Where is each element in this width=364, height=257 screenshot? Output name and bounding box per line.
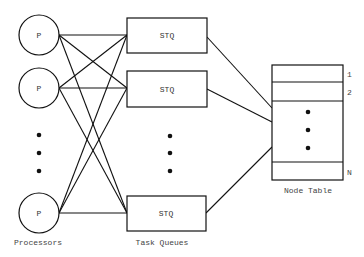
- processor-node-n: P: [19, 193, 59, 233]
- task-queue-label: STQ: [160, 85, 175, 94]
- task-queues-caption: Task Queues: [136, 238, 189, 247]
- processors-caption: Processors: [14, 238, 62, 247]
- task-queue-n: STQ: [127, 196, 206, 231]
- task-queue-2: STQ: [127, 71, 207, 107]
- row-label-n: N: [347, 168, 352, 177]
- task-queue-column: STQ STQ STQ Task Queues: [127, 18, 207, 247]
- processor-column: P P P Processors: [14, 15, 62, 247]
- node-table-caption: Node Table: [284, 186, 332, 195]
- processor-ellipsis: [37, 133, 42, 174]
- row-label-2: 2: [347, 88, 352, 97]
- processor-node-2: P: [19, 68, 59, 108]
- task-queue-label: STQ: [159, 209, 174, 218]
- queue-table-connections: [206, 37, 272, 213]
- task-queue-ellipsis: [168, 134, 173, 174]
- processor-queue-connections: [59, 35, 127, 213]
- node-table: 1 2 N Node Table: [272, 65, 352, 195]
- processor-node-1: P: [19, 15, 59, 55]
- row-label-1: 1: [347, 70, 352, 79]
- processor-label: P: [37, 209, 42, 218]
- processor-label: P: [37, 31, 42, 40]
- task-queue-label: STQ: [160, 31, 175, 40]
- task-queue-1: STQ: [127, 18, 207, 53]
- diagram-canvas: P P P Processors STQ STQ: [0, 0, 364, 257]
- processor-label: P: [37, 84, 42, 93]
